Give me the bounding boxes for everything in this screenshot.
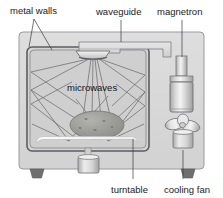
fan-hub xyxy=(180,122,186,127)
label-waveguide: waveguide xyxy=(95,6,141,17)
label-turntable: turntable xyxy=(111,184,148,195)
potato-speck-5 xyxy=(79,127,82,129)
oven-foot-left xyxy=(30,169,44,178)
microwave-oven-diagram: metal walls waveguide magnetron microwav… xyxy=(0,0,223,198)
magnetron-shoulder xyxy=(170,76,193,82)
fan-motor-top xyxy=(173,130,193,135)
label-microwaves: microwaves xyxy=(67,82,117,93)
potato-speck-1 xyxy=(84,118,87,120)
label-metal-walls: metal walls xyxy=(10,5,57,16)
food-item xyxy=(70,111,124,139)
magnetron-neck xyxy=(176,56,187,76)
label-cooling-fan: cooling fan xyxy=(164,184,210,195)
potato-speck-3 xyxy=(93,129,96,131)
diagram-canvas: metal walls waveguide magnetron microwav… xyxy=(0,0,223,198)
potato-speck-2 xyxy=(103,120,106,122)
label-magnetron: magnetron xyxy=(157,6,202,17)
magnetron-body xyxy=(170,82,193,112)
turntable-motor-top xyxy=(78,155,99,160)
potato-speck-4 xyxy=(111,126,114,128)
potato-body xyxy=(70,111,124,139)
